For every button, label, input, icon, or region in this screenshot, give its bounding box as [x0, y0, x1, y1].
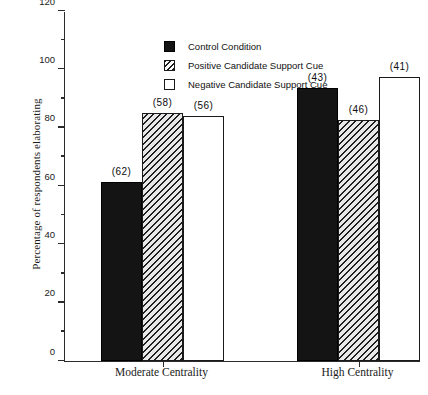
bar-value-label: (62) — [112, 166, 131, 177]
bar-value-label: (41) — [390, 61, 409, 72]
legend-item-positive: Positive Candidate Support Cue — [164, 57, 327, 73]
y-axis-title: Percentage of respondents elaborating — [30, 54, 42, 314]
y-tick-label: 60 — [44, 170, 55, 181]
y-tick-major — [58, 301, 65, 302]
y-tick-label: 20 — [44, 287, 55, 298]
bar-value-label: (46) — [349, 104, 368, 115]
y-tick-label: 40 — [44, 229, 55, 240]
bar-positive-moderate — [142, 113, 183, 361]
y-tick-major — [58, 10, 65, 11]
y-tick-major — [58, 126, 65, 127]
bar-control-moderate — [101, 182, 142, 361]
y-tick-major — [58, 360, 65, 361]
bar-value-label: (43) — [308, 72, 327, 83]
plot-area: 020406080100120 (62)(58)(56)(43)(46)(41)… — [64, 12, 420, 362]
x-category-label: Moderate Centrality — [115, 366, 208, 378]
y-tick-major — [58, 185, 65, 186]
y-tick-minor — [61, 330, 65, 331]
legend-swatch-control-icon — [164, 41, 175, 52]
legend-label-positive: Positive Candidate Support Cue — [188, 60, 323, 71]
y-tick-minor — [61, 39, 65, 40]
x-category-label: High Centrality — [322, 366, 394, 378]
bar-control-high — [297, 88, 338, 361]
bar-value-label: (58) — [153, 97, 172, 108]
legend: Control Condition Positive Candidate Sup… — [164, 38, 327, 95]
bar-positive-high — [338, 120, 379, 361]
legend-item-control: Control Condition — [164, 38, 327, 54]
bar-value-label: (56) — [194, 100, 213, 111]
y-tick-label: 0 — [50, 345, 55, 356]
bar-chart-figure: Percentage of respondents elaborating 02… — [0, 0, 428, 395]
y-tick-minor — [61, 97, 65, 98]
bar-negative-high — [379, 77, 420, 361]
y-tick-major — [58, 68, 65, 69]
y-tick-label: 100 — [39, 54, 55, 65]
y-tick-major — [58, 243, 65, 244]
y-tick-minor — [61, 155, 65, 156]
bar-negative-moderate — [183, 116, 224, 361]
legend-label-control: Control Condition — [188, 41, 261, 52]
legend-swatch-negative-icon — [164, 79, 175, 90]
y-tick-label: 80 — [44, 112, 55, 123]
y-tick-minor — [61, 272, 65, 273]
y-tick-minor — [61, 214, 65, 215]
y-tick-label: 120 — [39, 0, 55, 6]
legend-swatch-positive-icon — [164, 60, 175, 71]
